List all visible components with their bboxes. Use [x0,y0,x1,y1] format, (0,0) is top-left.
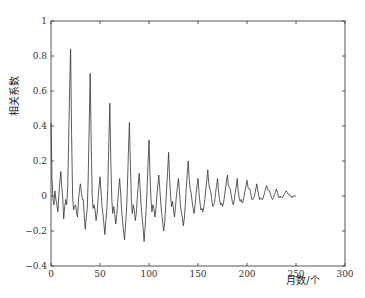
autocorrelation-chart: 050100150200250300 −0.4−0.200.20.40.60.8… [0,0,365,298]
y-tick-label: −0.4 [25,261,47,271]
x-tick-label: 200 [238,269,255,279]
y-tick-label: 0.2 [33,156,47,166]
y-tick-label: 0.4 [33,121,48,131]
y-tick-label: 0.8 [33,51,48,61]
x-tick-label: 150 [189,269,206,279]
y-tick-label: −0.2 [25,226,47,236]
y-tick-label: 0 [41,191,47,201]
x-tick-label: 100 [140,269,157,279]
y-axis-label: 相关系数 [8,76,20,116]
plot-area [51,21,345,266]
x-tick-label: 50 [94,269,106,279]
y-tick-label: 1 [41,16,47,26]
y-tick-label: 0.6 [33,86,48,96]
x-tick-label: 0 [48,269,54,279]
x-tick-label: 300 [336,269,353,279]
x-axis-label: 月数/个 [286,274,319,286]
